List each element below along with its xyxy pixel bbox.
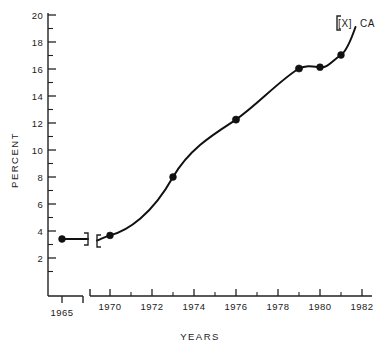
x-tick-label-1965: 1965 bbox=[50, 307, 73, 318]
y-axis: 20 18 16 14 12 10 8 6 4 2 PERCENT bbox=[9, 10, 56, 297]
series-ca-line bbox=[97, 27, 356, 241]
y-tick-label-8: 8 bbox=[37, 172, 43, 183]
x-tick-label-1982: 1982 bbox=[350, 301, 373, 312]
x-tick-label-1978: 1978 bbox=[266, 301, 289, 312]
x-tick-label-1970: 1970 bbox=[98, 301, 121, 312]
data-point-1979 bbox=[295, 65, 302, 72]
x-tick-label-1980: 1980 bbox=[308, 301, 331, 312]
y-tick-label-20: 20 bbox=[32, 10, 43, 21]
data-point-1970 bbox=[107, 232, 114, 239]
data-point-1980 bbox=[317, 64, 324, 71]
x-axis-detached-segment: 1965 bbox=[48, 296, 83, 318]
detached-observation-1965 bbox=[59, 233, 88, 245]
x-tick-label-1974: 1974 bbox=[182, 301, 205, 312]
y-axis-title: PERCENT bbox=[9, 132, 20, 188]
y-tick-label-12: 12 bbox=[32, 118, 43, 129]
data-point-1976 bbox=[232, 116, 239, 123]
line-chart: 20 18 16 14 12 10 8 6 4 2 PERCENT 1965 bbox=[0, 0, 383, 350]
series-start-bracket bbox=[97, 235, 101, 247]
y-tick-label-16: 16 bbox=[32, 64, 43, 75]
series-ca bbox=[97, 27, 356, 247]
legend-symbol: [X] bbox=[338, 18, 352, 29]
y-tick-label-4: 4 bbox=[37, 226, 43, 237]
data-point-1981 bbox=[338, 52, 345, 59]
x-axis-title: YEARS bbox=[180, 331, 220, 342]
x-tick-label-1976: 1976 bbox=[224, 301, 247, 312]
chart-canvas: 20 18 16 14 12 10 8 6 4 2 PERCENT 1965 bbox=[0, 0, 383, 350]
y-tick-label-18: 18 bbox=[32, 37, 43, 48]
data-point-1965 bbox=[59, 236, 66, 243]
y-tick-label-10: 10 bbox=[32, 145, 43, 156]
x-tick-label-1972: 1972 bbox=[140, 301, 163, 312]
y-tick-label-14: 14 bbox=[32, 91, 43, 102]
data-point-1973 bbox=[170, 174, 177, 181]
y-tick-label-2: 2 bbox=[37, 253, 43, 264]
x-axis-main: 1970 1972 1974 1976 1978 1980 1982 YEARS bbox=[90, 289, 374, 342]
legend-series-name-ca: CA bbox=[360, 18, 375, 29]
y-tick-label-6: 6 bbox=[37, 199, 43, 210]
